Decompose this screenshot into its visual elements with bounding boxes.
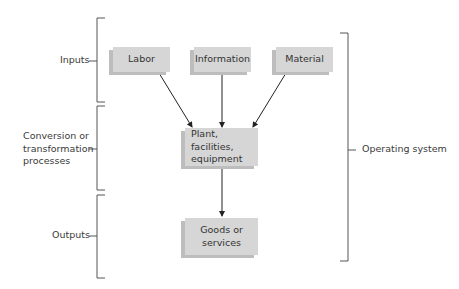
outputs-bracket	[97, 195, 105, 278]
outputs-label: Outputs	[52, 229, 90, 242]
arrow-material-plant	[253, 73, 286, 127]
inputs-bracket	[97, 18, 105, 102]
operating-system-label: Operating system	[362, 143, 447, 156]
plant-box: Plant, facilities, equipment	[185, 128, 258, 166]
material-box: Material	[276, 47, 333, 72]
conversion-label-line-2: transformation	[23, 143, 94, 156]
conversion-label-line-3: processes	[23, 155, 94, 168]
inputs-label: Inputs	[60, 54, 90, 67]
goods-text-line-1: Goods or	[200, 224, 243, 237]
plant-text-line-2: equipment	[191, 153, 258, 166]
conversion-label-line-1: Conversion or	[23, 130, 94, 143]
plant-text-line-1: Plant, facilities,	[191, 128, 258, 153]
conversion-bracket	[97, 106, 105, 190]
labor-text: Labor	[128, 53, 155, 66]
operating-system-bracket	[340, 33, 348, 261]
arrow-labor-plant	[159, 73, 192, 127]
labor-box: Labor	[113, 47, 170, 72]
conversion-label: Conversion or transformation processes	[23, 130, 94, 168]
information-text: Information	[195, 53, 250, 66]
goods-box: Goods or services	[185, 218, 258, 255]
material-text: Material	[285, 53, 324, 66]
information-box: Information	[194, 47, 251, 72]
goods-text-line-2: services	[200, 237, 243, 250]
